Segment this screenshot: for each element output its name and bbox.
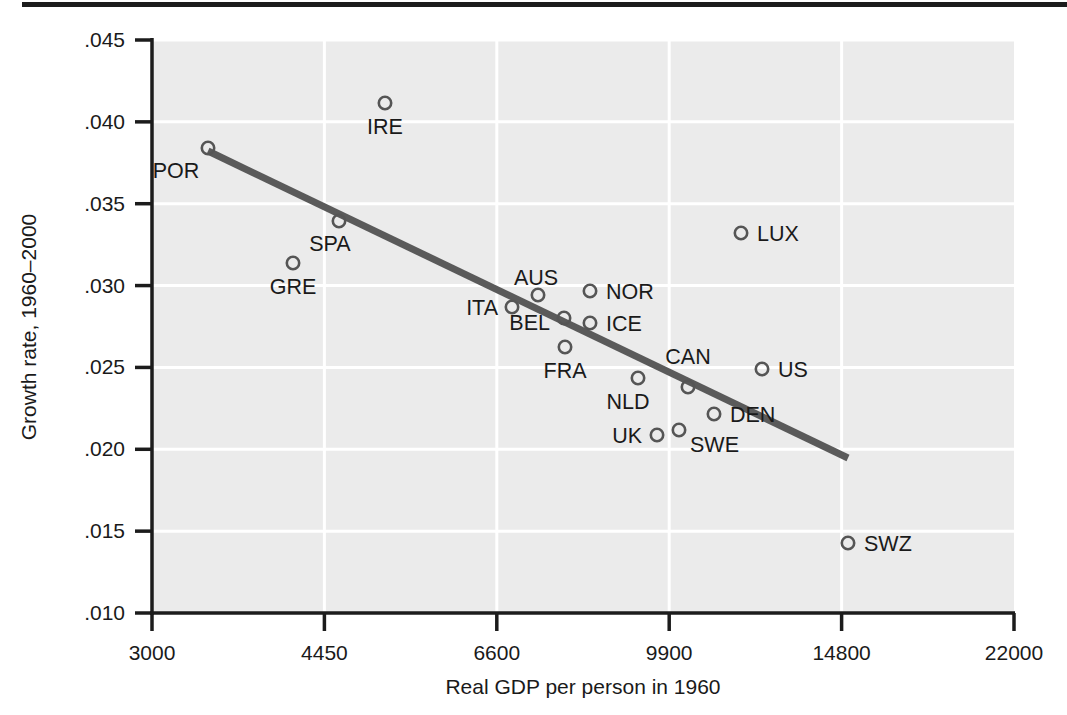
y-tick-label: .010	[84, 601, 125, 624]
data-point-label: UK	[612, 424, 643, 448]
y-tick-label: .035	[84, 192, 125, 215]
y-tick-label: .030	[84, 274, 125, 297]
data-point-label: FRA	[544, 359, 588, 383]
data-point-label: NOR	[606, 280, 654, 304]
x-tick-label: 14800	[812, 641, 870, 664]
x-axis-title: Real GDP per person in 1960	[445, 675, 720, 698]
x-tick-label: 9900	[646, 641, 693, 664]
data-point-label: IRE	[367, 115, 403, 139]
figure-root: .045.040.035.030.025.020.015.010 3000445…	[0, 0, 1067, 715]
data-point-label: AUS	[514, 266, 558, 290]
data-point-label: ICE	[606, 312, 642, 336]
data-point-label: POR	[153, 159, 200, 183]
data-point-label: NLD	[606, 390, 649, 414]
scatter-plot-figure: .045.040.035.030.025.020.015.010 3000445…	[0, 0, 1067, 715]
y-tick-label: .015	[84, 519, 125, 542]
data-point-label: SWE	[690, 433, 739, 457]
x-axis-ticks: 30004450660099001480022000	[129, 613, 1044, 664]
x-tick-label: 4450	[301, 641, 348, 664]
data-point-label: SWZ	[864, 532, 912, 556]
x-tick-label: 6600	[473, 641, 520, 664]
data-point-label: BEL	[509, 311, 550, 335]
y-axis-title: Growth rate, 1960–2000	[17, 214, 40, 441]
plot-area-background	[152, 40, 1014, 613]
x-tick-label: 22000	[985, 641, 1043, 664]
y-axis-ticks: .045.040.035.030.025.020.015.010	[84, 28, 152, 624]
data-point-label: US	[778, 358, 808, 382]
y-tick-label: .020	[84, 437, 125, 460]
data-point-label: CAN	[665, 345, 710, 369]
data-point-label: SPA	[309, 232, 351, 256]
data-point-label: DEN	[730, 403, 775, 427]
y-tick-label: .025	[84, 355, 125, 378]
data-point-label: LUX	[757, 222, 799, 246]
y-tick-label: .040	[84, 110, 125, 133]
data-point-label: ITA	[466, 296, 499, 320]
y-tick-label: .045	[84, 28, 125, 51]
data-point-label: GRE	[270, 275, 317, 299]
x-tick-label: 3000	[129, 641, 176, 664]
